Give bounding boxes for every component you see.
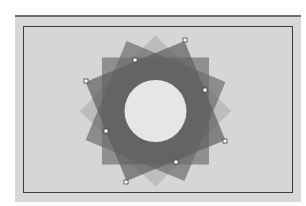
center-hole <box>125 80 187 142</box>
selection-handle[interactable] <box>84 79 88 83</box>
selection-handle[interactable] <box>174 160 178 164</box>
selection-handle[interactable] <box>133 58 137 62</box>
artwork-layer[interactable] <box>0 0 306 206</box>
selection-handle[interactable] <box>183 38 187 42</box>
selection-handle[interactable] <box>223 139 227 143</box>
selection-handle[interactable] <box>124 180 128 184</box>
selection-handle[interactable] <box>203 88 207 92</box>
selection-handle[interactable] <box>104 129 108 133</box>
